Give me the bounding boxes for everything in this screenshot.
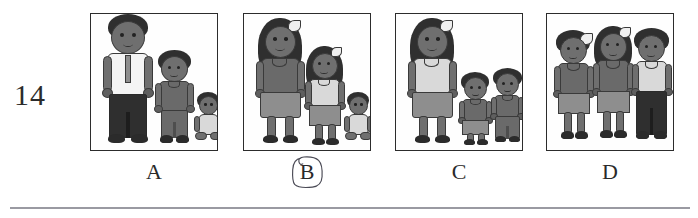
figure-baby [193,92,218,146]
worksheet-question: 14 [0,0,698,218]
option-c-panel[interactable] [395,13,523,151]
figure-adult-woman [404,18,460,146]
option-b-label: B [243,159,371,185]
option-c-letter: C [452,159,467,185]
option-a-panel[interactable] [90,13,218,151]
option-b-panel[interactable] [243,13,371,151]
option-a[interactable]: A [90,13,218,151]
option-c-label: C [395,159,523,185]
figure-child-boy [631,28,674,146]
figure-child-boy [153,50,197,146]
option-b[interactable]: B [243,13,371,151]
option-a-label: A [90,159,218,185]
figure-child-girl [458,72,494,146]
figure-adult-man [99,14,157,146]
figure-child-girl [302,46,348,146]
figure-child-boy [490,68,523,146]
option-d-panel[interactable] [546,13,674,151]
figure-baby [343,92,371,146]
option-b-letter: B [300,159,315,185]
section-divider-rule [10,207,690,209]
option-d-label: D [546,159,674,185]
option-d[interactable]: D [546,13,674,151]
question-number: 14 [14,78,46,112]
option-d-letter: D [602,159,618,185]
figure-adult-woman [252,18,308,146]
option-a-letter: A [146,159,162,185]
option-c[interactable]: C [395,13,523,151]
